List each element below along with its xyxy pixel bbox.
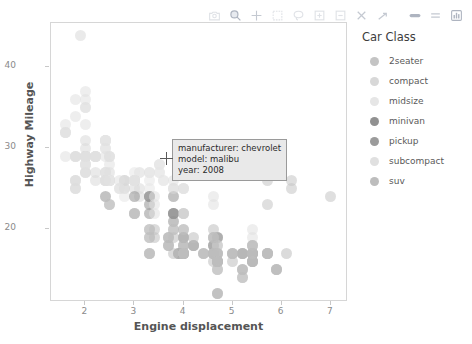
- legend-item-label: suv: [389, 176, 405, 186]
- scatter-point[interactable]: [286, 183, 297, 194]
- scatter-point[interactable]: [178, 183, 189, 194]
- legend-item-midsize[interactable]: midsize: [360, 91, 470, 111]
- scatter-point[interactable]: [144, 232, 155, 243]
- x-tick-label: 2: [74, 306, 94, 316]
- scatter-point[interactable]: [212, 264, 223, 275]
- zoom-icon[interactable]: [228, 8, 243, 23]
- scatter-point[interactable]: [149, 199, 160, 210]
- scatter-point[interactable]: [75, 30, 86, 41]
- legend-item-label: compact: [389, 76, 428, 86]
- zoom-out-icon[interactable]: [333, 8, 348, 23]
- zoom-in-icon[interactable]: [312, 8, 327, 23]
- tooltip-year: year: 2008: [178, 165, 281, 176]
- legend-item-minivan[interactable]: minivan: [360, 111, 470, 131]
- legend-swatch-icon: [370, 177, 379, 186]
- legend-title: Car Class: [360, 30, 470, 44]
- x-axis-title: Engine displacement: [50, 320, 347, 333]
- y-tick-label: 30: [0, 141, 16, 151]
- plotly-modebar[interactable]: [207, 6, 464, 24]
- scatter-point[interactable]: [178, 248, 189, 259]
- legend-swatch-icon: [370, 137, 379, 146]
- legend-swatch-icon: [370, 97, 379, 106]
- scatter-point[interactable]: [247, 256, 258, 267]
- x-tick-label: 7: [320, 306, 340, 316]
- legend-swatch-icon: [370, 77, 379, 86]
- legend: Car Class 2seatercompactmidsizeminivanpi…: [360, 30, 470, 191]
- scatter-point[interactable]: [208, 224, 219, 235]
- scatter-point[interactable]: [262, 199, 273, 210]
- scatter-point[interactable]: [188, 232, 199, 243]
- x-tick-mark: [330, 301, 331, 305]
- autoscale-icon[interactable]: [354, 8, 369, 23]
- scatter-point[interactable]: [208, 191, 219, 202]
- x-tick-mark: [84, 301, 85, 305]
- legend-swatch-icon: [370, 157, 379, 166]
- scatter-point[interactable]: [80, 119, 91, 130]
- y-tick-label: 20: [0, 222, 16, 232]
- pan-icon[interactable]: [249, 8, 264, 23]
- scatter-point[interactable]: [325, 191, 336, 202]
- x-tick-mark: [281, 301, 282, 305]
- tooltip-model: model: malibu: [178, 154, 281, 165]
- x-tick-mark: [232, 301, 233, 305]
- legend-item-subcompact[interactable]: subcompact: [360, 151, 470, 171]
- legend-item-label: 2seater: [389, 56, 423, 66]
- legend-item-label: pickup: [389, 136, 419, 146]
- legend-item-label: midsize: [389, 96, 423, 106]
- scatter-point[interactable]: [80, 151, 91, 162]
- scatter-point[interactable]: [144, 248, 155, 259]
- camera-icon[interactable]: [207, 8, 222, 23]
- scatter-point[interactable]: [104, 199, 115, 210]
- x-tick-mark: [183, 301, 184, 305]
- x-tick-label: 3: [123, 306, 143, 316]
- legend-item-suv[interactable]: suv: [360, 171, 470, 191]
- scatter-point[interactable]: [237, 248, 248, 259]
- lasso-select-icon[interactable]: [291, 8, 306, 23]
- scatter-point[interactable]: [144, 175, 155, 186]
- scatter-point[interactable]: [247, 240, 258, 251]
- legend-item-compact[interactable]: compact: [360, 71, 470, 91]
- y-tick-mark: [45, 228, 49, 229]
- x-tick-mark: [133, 301, 134, 305]
- legend-swatch-icon: [370, 117, 379, 126]
- x-tick-label: 6: [271, 306, 291, 316]
- y-axis-title: Highway Mileage: [23, 70, 36, 200]
- scatter-point[interactable]: [271, 264, 282, 275]
- scatter-point[interactable]: [178, 232, 189, 243]
- scatter-point[interactable]: [178, 208, 189, 219]
- x-tick-label: 5: [222, 306, 242, 316]
- box-select-icon[interactable]: [270, 8, 285, 23]
- tooltip-manufacturer: manufacturer: chevrolet: [178, 143, 281, 154]
- toggle-spike-lines-icon[interactable]: [407, 8, 422, 23]
- hover-tooltip: manufacturer: chevrolet model: malibu ye…: [172, 139, 287, 181]
- scatter-point[interactable]: [100, 175, 111, 186]
- x-tick-label: 4: [173, 306, 193, 316]
- scatter-point[interactable]: [212, 288, 223, 299]
- scatter-point[interactable]: [262, 248, 273, 259]
- scatter-point[interactable]: [198, 248, 209, 259]
- hover-crosshair-marker: [160, 152, 173, 165]
- y-tick-label: 40: [0, 60, 16, 70]
- legend-item-pickup[interactable]: pickup: [360, 131, 470, 151]
- plotly-logo-icon[interactable]: [449, 8, 464, 23]
- reset-axes-icon[interactable]: [375, 8, 390, 23]
- scatter-point[interactable]: [129, 208, 140, 219]
- scatter-point[interactable]: [70, 111, 81, 122]
- scatter-point[interactable]: [281, 248, 292, 259]
- legend-item-label: subcompact: [389, 156, 444, 166]
- scatter-point[interactable]: [60, 127, 71, 138]
- plotly-scatter-app: 203040234567 Highway Mileage Engine disp…: [0, 0, 472, 344]
- legend-swatch-icon: [370, 57, 379, 66]
- legend-item-label: minivan: [389, 116, 425, 126]
- y-tick-mark: [45, 147, 49, 148]
- hover-compare-icon[interactable]: [428, 8, 443, 23]
- y-tick-mark: [45, 66, 49, 67]
- legend-item-2seater[interactable]: 2seater: [360, 51, 470, 71]
- legend-items[interactable]: 2seatercompactmidsizeminivanpickupsubcom…: [360, 51, 470, 191]
